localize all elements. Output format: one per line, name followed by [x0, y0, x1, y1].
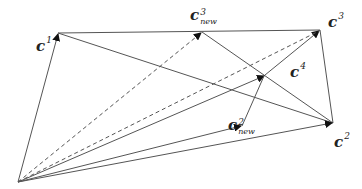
edge-c3-c2	[320, 30, 333, 123]
label-c2new: c2new	[228, 118, 255, 136]
label-c1: c1	[36, 38, 52, 54]
dashed-origin-c3new	[18, 33, 201, 182]
label-c3new: c3new	[190, 8, 217, 26]
vector-origin-c1	[18, 34, 58, 182]
label-c3: c3	[328, 14, 344, 30]
vector-diagram	[0, 0, 362, 189]
dashed-origin-c3	[18, 31, 319, 182]
vector-origin-c2	[18, 123, 332, 182]
edge-c1-c3	[58, 30, 320, 33]
edge-c3new-c2	[202, 32, 333, 123]
label-c4: c4	[290, 64, 306, 80]
label-c2: c2	[334, 134, 350, 150]
